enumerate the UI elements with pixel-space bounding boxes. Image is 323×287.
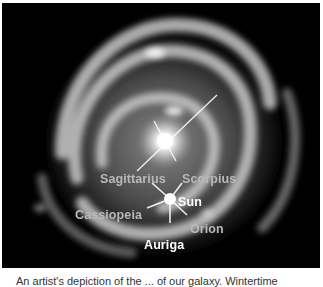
figure-caption: An artist's depiction of the ... of our … [0,274,323,287]
galaxy-image-panel: Sagittarius Scorpius Sun Cassiopeia Orio… [2,3,320,268]
label-cassiopeia: Cassiopeia [75,208,142,222]
label-scorpius: Scorpius [182,172,236,186]
label-orion: Orion [190,222,224,236]
label-sun: Sun [178,195,202,209]
milky-way-galaxy-illustration [2,3,320,268]
label-sagittarius: Sagittarius [100,172,166,186]
label-auriga: Auriga [144,238,184,252]
sun-marker [164,193,176,205]
